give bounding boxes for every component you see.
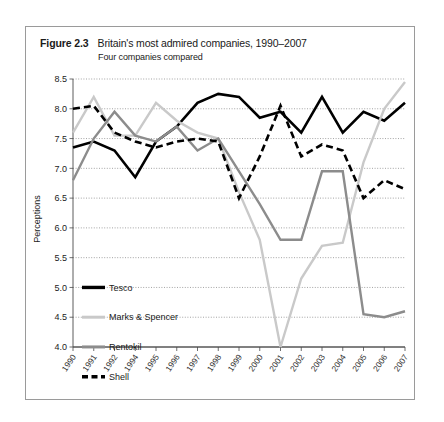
y-axis-title: Perceptions: [32, 195, 42, 243]
line-chart: 4.04.55.05.56.06.57.07.58.08.5 199019911…: [26, 71, 414, 399]
y-tick-label: 7.0: [54, 164, 67, 174]
x-tick-label: 2006: [371, 352, 390, 373]
data-series: [73, 82, 405, 347]
x-tick-label: 2007: [391, 352, 410, 373]
figure-subtitle: Four companies compared: [98, 52, 400, 62]
x-tick-label: 1995: [142, 352, 161, 373]
y-tick-label: 6.0: [54, 223, 67, 233]
figure-number: Figure 2.3: [40, 37, 89, 49]
x-tick-label: 1999: [225, 352, 244, 373]
y-tick-label: 8.0: [54, 104, 67, 114]
x-tick-label: 2004: [329, 352, 348, 373]
legend-label-rentokil: Rentokil: [109, 342, 142, 352]
x-tick-label: 1990: [59, 352, 78, 373]
x-tick-label: 2000: [246, 352, 265, 373]
figure-title-row: Figure 2.3 Britain's most admired compan…: [40, 37, 400, 49]
figure-container: Figure 2.3 Britain's most admired compan…: [25, 26, 415, 400]
chart-plot-area: 4.04.55.05.56.06.57.07.58.08.5 199019911…: [26, 71, 414, 399]
x-tick-label: 2005: [350, 352, 369, 373]
y-tick-label: 6.5: [54, 193, 67, 203]
x-tick-label: 1998: [205, 352, 224, 373]
y-tick-label: 7.5: [54, 134, 67, 144]
y-tick-label: 4.0: [54, 342, 67, 352]
figure-header: Figure 2.3 Britain's most admired compan…: [40, 37, 400, 62]
legend-label-tesco: Tesco: [109, 283, 133, 293]
x-tick-label: 1991: [80, 352, 99, 373]
x-tick-label: 1994: [122, 352, 141, 373]
x-tick-label: 1997: [184, 352, 203, 373]
y-axis: 4.04.55.05.56.06.57.07.58.08.5: [54, 74, 73, 352]
x-tick-label: 1996: [163, 352, 182, 373]
x-tick-label: 1992: [101, 352, 120, 373]
legend-label-marks-spencer: Marks & Spencer: [109, 312, 178, 322]
x-tick-label: 2003: [308, 352, 327, 373]
legend-label-shell: Shell: [109, 372, 129, 382]
x-tick-label: 2002: [288, 352, 307, 373]
y-tick-label: 4.5: [54, 312, 67, 322]
figure-title: Britain's most admired companies, 1990–2…: [98, 37, 307, 49]
x-tick-label: 2001: [267, 352, 286, 373]
y-tick-label: 5.5: [54, 253, 67, 263]
y-tick-label: 8.5: [54, 74, 67, 84]
y-tick-label: 5.0: [54, 283, 67, 293]
